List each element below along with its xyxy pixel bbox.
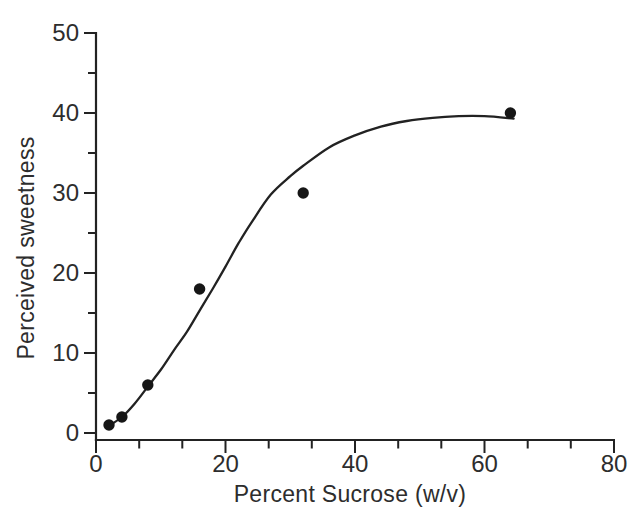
data-point	[505, 107, 516, 118]
x-tick-label: 60	[471, 450, 498, 477]
figure: 02040608001020304050 Perceived sweetness…	[0, 0, 633, 518]
y-tick-label: 50	[52, 19, 79, 46]
sweetness-chart: 02040608001020304050	[0, 0, 633, 518]
y-axis-title: Perceived sweetness	[13, 136, 40, 359]
x-tick-label: 80	[601, 450, 628, 477]
x-axis-title: Percent Sucrose (w/v)	[234, 481, 467, 508]
data-point	[116, 411, 127, 422]
y-tick-label: 20	[52, 259, 79, 286]
y-tick-label: 40	[52, 99, 79, 126]
x-tick-label: 0	[89, 450, 102, 477]
y-tick-label: 10	[52, 339, 79, 366]
data-point	[194, 283, 205, 294]
y-tick-label: 0	[66, 419, 79, 446]
y-tick-label: 30	[52, 179, 79, 206]
x-tick-label: 20	[212, 450, 239, 477]
data-point	[298, 187, 309, 198]
fit-curve	[108, 116, 514, 427]
x-tick-label: 40	[342, 450, 369, 477]
data-point	[142, 379, 153, 390]
data-point	[103, 419, 114, 430]
